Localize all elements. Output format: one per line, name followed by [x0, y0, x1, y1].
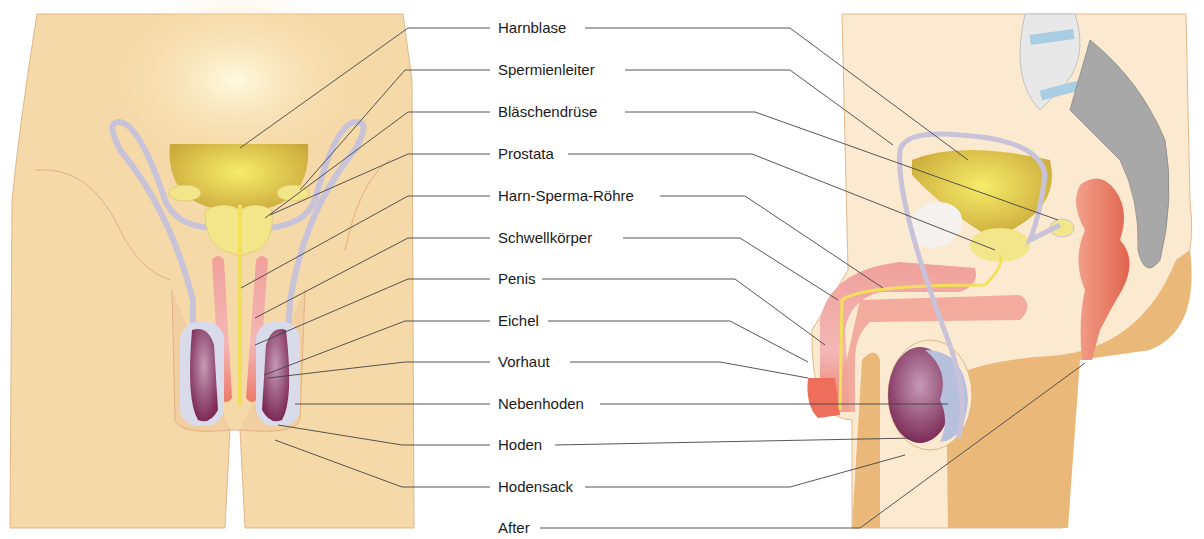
front-body — [10, 0, 414, 528]
label-spermienleiter: Spermienleiter — [498, 61, 595, 79]
front-urethra — [238, 205, 242, 405]
label-blaeschendruese: Bläschendrüse — [498, 103, 597, 121]
label-schwellkoerper: Schwellkörper — [498, 229, 592, 247]
label-penis: Penis — [498, 270, 536, 288]
label-after: After — [498, 519, 530, 537]
label-harn-sperma-roehre: Harn-Sperma-Röhre — [498, 187, 634, 205]
label-hoden: Hoden — [498, 436, 542, 454]
label-eichel: Eichel — [498, 312, 539, 330]
label-hodensack: Hodensack — [498, 478, 573, 496]
label-harnblase: Harnblase — [498, 19, 566, 37]
label-nebenhoden: Nebenhoden — [498, 395, 584, 413]
label-vorhaut: Vorhaut — [498, 353, 550, 371]
front-view-illustration — [0, 0, 1204, 539]
anatomy-diagram: Harnblase Spermienleiter Bläschendrüse P… — [0, 0, 1204, 539]
label-prostata: Prostata — [498, 145, 554, 163]
